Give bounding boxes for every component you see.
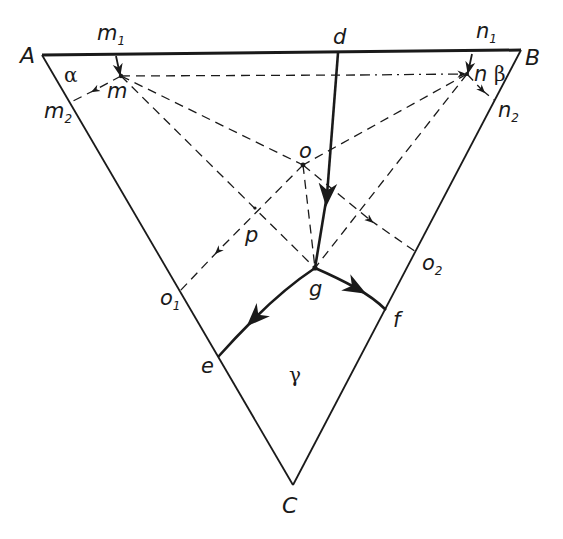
label-n1: n1 <box>476 19 497 46</box>
label-b: B <box>525 45 540 70</box>
point-n <box>465 72 469 76</box>
label-e: e <box>201 354 214 378</box>
line-o-o1-a <box>218 165 303 251</box>
curve-d-g <box>327 53 338 195</box>
line-n-o <box>303 74 467 165</box>
ternary-phase-diagram: A B C α β γ m1 m m2 n1 n n2 d o p g o1 o… <box>0 0 563 539</box>
line-m-o <box>121 76 303 165</box>
label-o1: o1 <box>160 286 181 313</box>
line-o-o2-b <box>370 220 416 252</box>
triangle-edges <box>42 50 521 485</box>
solid-curves <box>116 53 472 357</box>
label-d: d <box>333 25 347 49</box>
line-m-n <box>121 74 462 76</box>
line-n-g <box>315 74 467 268</box>
point-m <box>119 74 123 78</box>
curve-n1-n <box>469 54 472 68</box>
point-g <box>312 265 317 270</box>
line-o-g <box>303 165 315 268</box>
label-gamma: γ <box>289 363 301 387</box>
label-alpha: α <box>64 63 78 87</box>
label-o: o <box>299 139 312 163</box>
label-o2: o2 <box>422 251 443 278</box>
point-markers <box>119 72 469 271</box>
label-n: n <box>474 62 487 86</box>
curve-m1-m <box>116 56 119 70</box>
label-a: A <box>18 43 35 68</box>
label-g: g <box>309 277 322 301</box>
edge-ac <box>42 55 293 485</box>
label-p: p <box>244 223 258 247</box>
point-p <box>253 206 256 209</box>
label-m2: m2 <box>44 99 72 126</box>
line-m-m2-b <box>73 90 95 101</box>
line-o-o2-a <box>303 165 370 220</box>
label-beta: β <box>494 62 506 86</box>
label-c: C <box>282 493 298 518</box>
edge-bc <box>293 50 521 485</box>
point-o <box>301 163 306 168</box>
edge-ab <box>42 50 521 55</box>
line-n-n2-b <box>482 90 494 100</box>
label-f: f <box>393 308 404 332</box>
label-n2: n2 <box>498 98 519 125</box>
line-o-o1-b <box>180 251 218 291</box>
curve-g-e <box>255 268 315 318</box>
label-m1: m1 <box>97 21 125 48</box>
label-m: m <box>107 79 127 103</box>
